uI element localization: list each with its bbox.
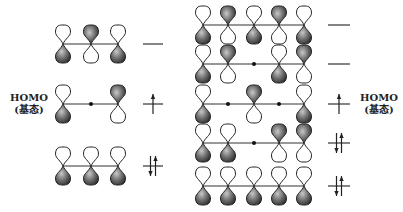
- shaded-lobe: [221, 45, 236, 64]
- energy-level: [328, 94, 350, 114]
- right-homo-label: HOMO (基态): [355, 92, 403, 116]
- shaded-lobe: [221, 6, 236, 25]
- shaded-lobe: [272, 124, 287, 143]
- white-lobe: [297, 85, 312, 104]
- node-dot: [277, 102, 281, 106]
- molecular-orbital-5: [196, 167, 351, 205]
- shaded-lobe: [247, 186, 262, 205]
- shaded-lobe: [297, 124, 312, 143]
- white-lobe: [56, 147, 71, 166]
- white-lobe: [56, 25, 71, 44]
- allyl-mo-set: [56, 25, 164, 185]
- shaded-lobe: [196, 25, 211, 44]
- left-homo-text: HOMO: [4, 92, 54, 104]
- shaded-lobe: [272, 64, 287, 83]
- right-ground-text: (基态): [355, 104, 403, 116]
- shaded-lobe: [221, 143, 236, 162]
- node-dot: [89, 102, 93, 106]
- shaded-lobe: [56, 44, 71, 63]
- molecular-orbital-2: [56, 85, 164, 123]
- molecular-orbital-1: [196, 6, 351, 44]
- right-homo-text: HOMO: [355, 92, 403, 104]
- shaded-lobe: [221, 186, 236, 205]
- shaded-lobe: [196, 64, 211, 83]
- energy-level: [143, 156, 163, 176]
- shaded-lobe: [111, 85, 126, 104]
- shaded-lobe: [196, 104, 211, 123]
- shaded-lobe: [84, 25, 99, 44]
- shaded-lobe: [297, 45, 312, 64]
- white-lobe: [221, 64, 236, 83]
- white-lobe: [247, 6, 262, 25]
- shaded-lobe: [56, 166, 71, 185]
- white-lobe: [111, 104, 126, 123]
- molecular-orbital-3: [196, 85, 351, 123]
- shaded-lobe: [297, 186, 312, 205]
- white-lobe: [111, 147, 126, 166]
- white-lobe: [56, 85, 71, 104]
- shaded-lobe: [196, 186, 211, 205]
- node-dot: [252, 141, 256, 145]
- left-homo-label: HOMO (基态): [4, 92, 54, 116]
- node-dot: [252, 62, 256, 66]
- shaded-lobe: [247, 25, 262, 44]
- shaded-lobe: [84, 166, 99, 185]
- shaded-lobe: [272, 6, 287, 25]
- white-lobe: [84, 44, 99, 63]
- molecular-orbital-2: [196, 45, 351, 83]
- white-lobe: [247, 167, 262, 186]
- pentadienyl-mo-set: [196, 6, 351, 205]
- shaded-lobe: [111, 166, 126, 185]
- shaded-lobe: [111, 44, 126, 63]
- white-lobe: [196, 167, 211, 186]
- white-lobe: [297, 143, 312, 162]
- white-lobe: [297, 64, 312, 83]
- white-lobe: [272, 143, 287, 162]
- left-ground-text: (基态): [4, 104, 54, 116]
- white-lobe: [297, 6, 312, 25]
- white-lobe: [196, 124, 211, 143]
- node-dot: [226, 102, 230, 106]
- white-lobe: [272, 167, 287, 186]
- shaded-lobe: [196, 143, 211, 162]
- energy-level: [328, 176, 350, 196]
- white-lobe: [221, 167, 236, 186]
- white-lobe: [196, 45, 211, 64]
- white-lobe: [272, 45, 287, 64]
- white-lobe: [111, 25, 126, 44]
- shaded-lobe: [56, 104, 71, 123]
- shaded-lobe: [297, 104, 312, 123]
- shaded-lobe: [247, 85, 262, 104]
- white-lobe: [297, 167, 312, 186]
- white-lobe: [221, 124, 236, 143]
- shaded-lobe: [297, 25, 312, 44]
- molecular-orbital-3: [56, 147, 164, 185]
- white-lobe: [272, 25, 287, 44]
- molecular-orbital-1: [56, 25, 164, 63]
- white-lobe: [247, 104, 262, 123]
- energy-level: [328, 133, 350, 153]
- white-lobe: [196, 85, 211, 104]
- white-lobe: [221, 25, 236, 44]
- mo-diagram: [0, 0, 403, 212]
- white-lobe: [196, 6, 211, 25]
- shaded-lobe: [272, 186, 287, 205]
- white-lobe: [84, 147, 99, 166]
- molecular-orbital-4: [196, 124, 351, 162]
- energy-level: [143, 94, 163, 114]
